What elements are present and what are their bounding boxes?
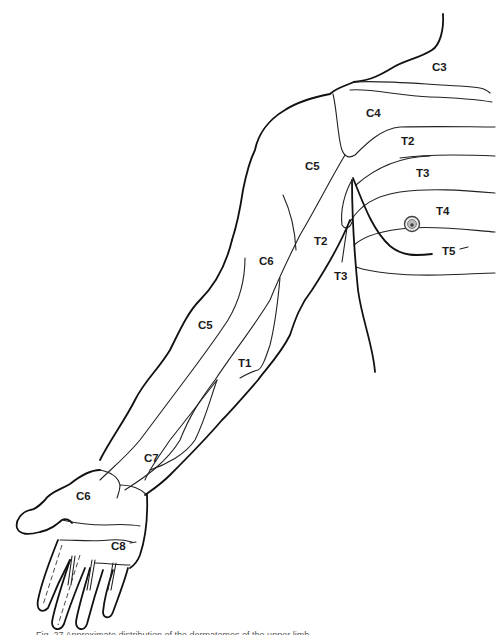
label-c6-hand: C6 — [76, 490, 91, 502]
c6-c5-boundary-forearm — [100, 258, 245, 480]
hand-wrist-arc — [100, 470, 120, 498]
label-c7: C7 — [144, 452, 159, 464]
t5-lower-boundary — [356, 267, 495, 275]
finger-little — [103, 568, 128, 617]
figure-caption: Fig. 27 Approximate distribution of the … — [36, 627, 496, 635]
trunk-side-outline — [352, 180, 375, 372]
t4-t5-boundary — [354, 227, 495, 245]
label-t2-chest: T2 — [401, 135, 414, 147]
lateral-arm-outline — [100, 240, 232, 460]
label-c6-arm: C6 — [259, 255, 274, 267]
dermatome-diagram: C3 C4 T2 T3 T4 T5 C5 T2 T3 C6 C5 T1 C7 C… — [0, 0, 503, 635]
label-t1: T1 — [238, 357, 252, 369]
c4-c5-boundary — [333, 94, 495, 157]
label-t4: T4 — [436, 205, 450, 217]
pectoral-fold — [353, 178, 432, 255]
label-c5-forearm: C5 — [198, 319, 213, 331]
palm-edge — [130, 495, 147, 568]
label-t5: T5 — [442, 245, 456, 257]
hand-wrist-arc-2 — [120, 485, 147, 495]
neck-outline — [354, 14, 443, 82]
finger-middle — [52, 560, 85, 629]
t5-tick — [460, 247, 468, 249]
label-t3-chest: T3 — [416, 167, 429, 179]
c5-t2-boundary — [125, 155, 345, 490]
label-c4: C4 — [366, 107, 381, 119]
label-t3-arm: T3 — [334, 270, 347, 282]
c5-c6-boundary-upper — [283, 195, 296, 250]
diagram-canvas: C3 C4 T2 T3 T4 T5 C5 T2 T3 C6 C5 T1 C7 C… — [0, 0, 503, 635]
label-c5-upper: C5 — [305, 160, 320, 172]
nipple-center — [410, 223, 414, 227]
finger-slit-3 — [108, 563, 116, 590]
label-t2-arm: T2 — [314, 235, 327, 247]
label-c8: C8 — [111, 540, 126, 552]
shoulder-outline — [232, 82, 354, 240]
palm-crease-1 — [62, 520, 140, 526]
t4-upper-boundary — [350, 190, 495, 222]
label-c3: C3 — [432, 61, 447, 73]
c4-upper-boundary — [350, 90, 492, 102]
